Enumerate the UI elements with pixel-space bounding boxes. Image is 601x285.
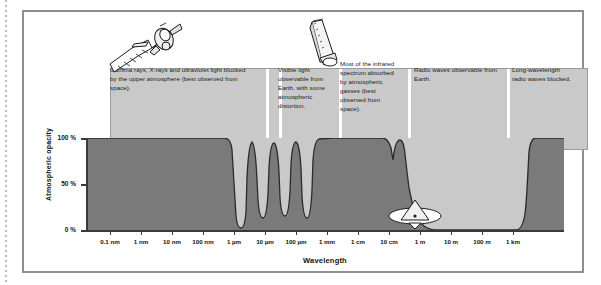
x-tick-mark-1 [141,230,142,235]
x-tick-mark-4 [234,230,235,235]
y-tick-label-100: 100 % [34,134,76,141]
annotation-long-radio-blocked: Long-wavelength radio waves blocked. [512,66,574,84]
space-telescope-icon [300,18,344,68]
panel-divider-4 [408,69,411,149]
x-tick-mark-5 [265,230,266,235]
y-tick-mark-0 [81,230,86,232]
panel-divider-5 [507,69,510,149]
x-axis-line [86,230,564,232]
y-tick-label-0: 0 % [34,226,76,233]
x-tick-mark-0 [110,230,111,235]
x-tick-label-13: 1 km [490,238,536,245]
x-tick-mark-10 [420,230,421,235]
plot-area [86,138,564,230]
x-axis-title: Wavelength [86,256,564,265]
x-tick-mark-9 [389,230,390,235]
panel-divider-1 [266,69,269,149]
x-tick-mark-2 [172,230,173,235]
y-axis-line [86,138,88,230]
annotation-visible-light: Visible light observable from Earth, wit… [278,66,330,111]
x-tick-mark-6 [296,230,297,235]
y-tick-mark-100 [81,138,86,140]
annotation-radio-observable: Radio waves observable from Earth. [414,66,500,84]
x-tick-mark-11 [451,230,452,235]
annotation-infrared: Most of the infrared spectrum absorbed b… [340,60,398,114]
x-tick-mark-12 [482,230,483,235]
page-margin-dotted-line [5,0,7,285]
y-tick-mark-50 [81,184,86,186]
y-axis-title: Atmospheric opacity [45,109,54,219]
satellite-icon [108,22,184,74]
x-tick-mark-7 [327,230,328,235]
x-tick-mark-8 [358,230,359,235]
radio-dish-icon [385,198,445,230]
atmospheric-opacity-curve [86,138,564,230]
y-tick-label-50: 50 % [34,180,76,187]
x-tick-mark-3 [203,230,204,235]
x-tick-mark-13 [513,230,514,235]
